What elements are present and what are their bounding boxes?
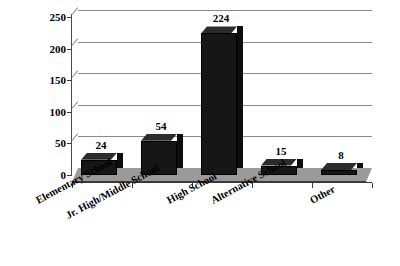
bar-side-face [177,134,183,168]
bar-side-face [357,163,363,168]
bar-top-face [321,163,357,170]
bar-side-face [237,26,243,168]
bar[interactable] [201,26,237,175]
gridline [78,10,372,11]
bar-value-label: 54 [131,121,191,132]
bar-value-label: 15 [251,146,311,157]
bar-top-face [81,153,117,160]
x-axis-tick [372,183,373,188]
bar-top-face [141,134,177,141]
y-axis-tick-label: 100 [26,107,66,118]
bar-chart: 050100150200250 2454224158 Elementary Sc… [0,0,400,266]
bar-front-face [321,170,357,175]
bar-value-label: 24 [71,140,131,151]
bar-side-face [297,159,303,168]
bar-side-face [117,153,123,168]
bar-value-label: 224 [191,13,251,24]
y-axis-tick-label: 50 [26,138,66,149]
y-axis-tick-label: 0 [26,170,66,181]
y-axis-line [71,14,72,176]
bar-value-label: 8 [311,150,371,161]
bar[interactable] [321,163,357,175]
bar-top-face [201,26,237,33]
y-axis-tick-label: 250 [26,12,66,23]
y-axis-tick-label: 150 [26,75,66,86]
y-axis-tick-label: 200 [26,44,66,55]
bar-front-face [201,33,237,175]
x-axis-tick [312,183,313,188]
